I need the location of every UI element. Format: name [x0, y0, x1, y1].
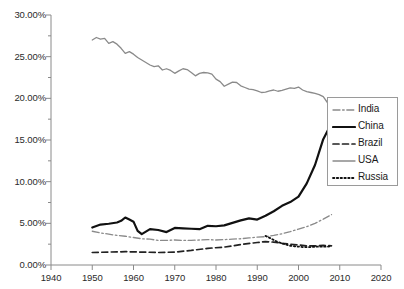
x-axis-tick-label: 1970	[155, 272, 195, 283]
x-axis-tick-label: 2020	[361, 272, 401, 283]
legend-line-swatch	[332, 152, 356, 169]
y-axis-tick-label: 20.00%	[0, 92, 46, 103]
legend-item-brazil[interactable]: Brazil	[332, 135, 396, 152]
x-axis-tick-label: 1990	[237, 272, 277, 283]
x-axis-tick-label: 2000	[279, 272, 319, 283]
y-axis-tick-label: 15.00%	[0, 134, 46, 145]
legend-item-russia[interactable]: Russia	[332, 169, 396, 186]
legend-item-china[interactable]: China	[332, 118, 396, 135]
series-line-usa	[92, 38, 331, 115]
y-axis-tick-label: 10.00%	[0, 176, 46, 187]
y-axis-tick-label: 5.00%	[0, 217, 46, 228]
legend-item-usa[interactable]: USA	[332, 152, 396, 169]
y-axis-tick-label: 25.00%	[0, 51, 46, 62]
legend-item-label: India	[358, 103, 379, 114]
legend-item-label: USA	[358, 154, 378, 165]
legend-item-label: Brazil	[358, 137, 382, 148]
legend-item-label: Russia	[358, 171, 388, 182]
series-layer	[92, 38, 331, 253]
x-axis-tick-label: 1940	[31, 272, 71, 283]
chart-legend: IndiaChinaBrazilUSARussia	[327, 97, 398, 186]
legend-item-india[interactable]: India	[332, 101, 396, 118]
x-axis-tick-label: 2010	[320, 272, 360, 283]
chart-container: 0.00%5.00%10.00%15.00%20.00%25.00%30.00%…	[0, 0, 404, 289]
y-axis-tick-label: 30.00%	[0, 9, 46, 20]
x-axis-tick-label: 1960	[114, 272, 154, 283]
y-axis-tick-label: 0.00%	[0, 259, 46, 270]
x-axis-tick-label: 1980	[196, 272, 236, 283]
series-line-china	[92, 123, 331, 234]
legend-line-swatch	[332, 135, 356, 152]
legend-item-label: China	[358, 120, 384, 131]
legend-line-swatch	[332, 101, 356, 118]
legend-line-swatch	[332, 118, 356, 135]
legend-line-swatch	[332, 169, 356, 186]
x-axis-tick-label: 1950	[72, 272, 112, 283]
